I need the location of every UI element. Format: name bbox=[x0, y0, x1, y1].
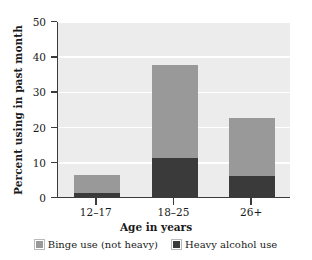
y-axis-tick-label: 50 bbox=[33, 16, 46, 28]
bar-segment-heavy-alcohol-use[interactable] bbox=[152, 158, 198, 197]
y-axis-tick-label: 10 bbox=[33, 157, 46, 169]
y-axis-tick-label: 30 bbox=[33, 86, 46, 98]
bar-segment-binge-use[interactable] bbox=[229, 118, 275, 176]
x-axis-tick-mark bbox=[250, 198, 251, 205]
bar-segment-binge-use[interactable] bbox=[152, 65, 198, 158]
y-axis-tick: 40 bbox=[0, 51, 57, 63]
x-axis-tick-mark bbox=[173, 198, 174, 205]
y-axis-tick-label: 40 bbox=[33, 51, 46, 63]
x-axis-tick-label: 18–25 bbox=[129, 206, 219, 218]
x-axis-tick-label: 12–17 bbox=[51, 206, 141, 218]
x-axis-tick-mark bbox=[95, 198, 96, 205]
bar-group[interactable] bbox=[152, 65, 198, 197]
chart-legend: Binge use (not heavy)Heavy alcohol use bbox=[0, 239, 312, 250]
y-axis-tick-label: 20 bbox=[33, 122, 46, 134]
plot-area bbox=[57, 22, 290, 198]
legend-label: Binge use (not heavy) bbox=[48, 239, 158, 250]
gridline bbox=[58, 56, 290, 58]
legend-swatch-binge bbox=[35, 240, 44, 249]
legend-label: Heavy alcohol use bbox=[185, 239, 277, 250]
gridline bbox=[58, 22, 290, 23]
bar-segment-binge-use[interactable] bbox=[74, 175, 120, 194]
y-axis-tick: 0 bbox=[0, 192, 57, 204]
y-axis-tick-label: 0 bbox=[39, 192, 46, 204]
y-axis-tick: 10 bbox=[0, 157, 57, 169]
legend-item[interactable]: Binge use (not heavy) bbox=[35, 239, 158, 250]
legend-swatch-heavy bbox=[172, 240, 181, 249]
legend-item[interactable]: Heavy alcohol use bbox=[172, 239, 277, 250]
x-axis-tick-label: 26+ bbox=[206, 206, 296, 218]
y-axis-title: Percent using in past month bbox=[12, 20, 24, 200]
y-axis-tick: 30 bbox=[0, 86, 57, 98]
stacked-bar-chart-figure: Percent using in past month 01020304050 … bbox=[0, 0, 312, 260]
x-axis-title: Age in years bbox=[0, 221, 312, 233]
bar-segment-heavy-alcohol-use[interactable] bbox=[229, 176, 275, 197]
bar-group[interactable] bbox=[229, 118, 275, 197]
plot-inner bbox=[58, 22, 290, 197]
bar-segment-heavy-alcohol-use[interactable] bbox=[74, 193, 120, 197]
bar-group[interactable] bbox=[74, 175, 120, 197]
y-axis-tick: 20 bbox=[0, 122, 57, 134]
y-axis-tick: 50 bbox=[0, 16, 57, 28]
